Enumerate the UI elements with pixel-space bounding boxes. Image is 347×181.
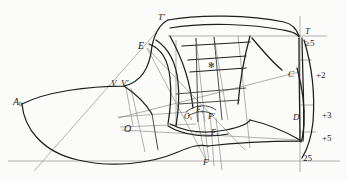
quarter-front-curve <box>149 44 171 124</box>
label-o1-subscript: 1 <box>190 116 192 121</box>
label-a0-subscript: 0 <box>19 100 22 107</box>
main-outline <box>22 16 314 164</box>
o-horizontal-2 <box>120 124 196 127</box>
facing-line-upper <box>182 42 250 46</box>
sole-bottom-curve <box>22 104 208 164</box>
dimension-heel-height: 25 <box>303 154 312 163</box>
label-f-prime: F' <box>208 113 215 121</box>
label-e: E <box>138 41 144 51</box>
center-asterisk-mark: ✻ <box>208 62 215 70</box>
construction-lines <box>8 16 340 172</box>
label-t-prime: T' <box>158 13 165 22</box>
label-f2-subscript: 2 <box>216 132 218 137</box>
topline-inner <box>170 24 299 37</box>
facing-line-bottom <box>190 68 246 72</box>
label-o: O <box>124 124 131 134</box>
dimension-d-offset: +3 <box>322 111 332 120</box>
label-d: D <box>293 113 300 122</box>
label-v-prime: V' <box>121 79 128 88</box>
heel-seat-line <box>208 141 300 146</box>
label-f1: F1 <box>196 106 203 115</box>
label-c: C <box>288 70 294 79</box>
label-a0: A0 <box>13 97 22 108</box>
label-t: T <box>305 27 310 36</box>
label-f: F <box>203 158 209 167</box>
label-o1: O1 <box>184 113 192 122</box>
technical-drawing-canvas: A0 V V' O O1 E T' T C D F F' F1 F2 ✻ ≥5 … <box>0 0 347 181</box>
label-f1-subscript: 1 <box>201 109 203 114</box>
pattern-linework <box>0 0 347 181</box>
dimension-c-offset: +2 <box>316 71 326 80</box>
dimension-top-right: ≥5 <box>305 39 314 48</box>
vamp-top-curve <box>22 20 168 104</box>
label-v: V <box>111 79 117 88</box>
vamp-seam-lower <box>170 120 250 132</box>
quarter-back-curve <box>252 38 282 70</box>
dimension-lower-offset: +5 <box>322 134 332 143</box>
rear-quarter-lower <box>250 120 300 140</box>
inner-detail-lines <box>152 37 246 150</box>
label-f2: F2 <box>211 129 218 138</box>
